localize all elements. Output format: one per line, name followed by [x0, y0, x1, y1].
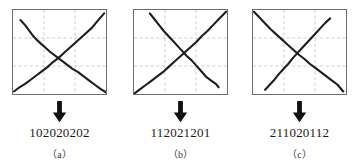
curve-ascending-a — [14, 13, 104, 91]
arrow-wrap-a — [0, 99, 119, 124]
figure-container: 102020202 （a） 112021201 （b） — [0, 0, 358, 167]
down-arrow-icon — [52, 101, 67, 123]
down-arrow-icon — [292, 101, 307, 123]
chart-plot-c — [253, 10, 346, 94]
sub-label-b: （b） — [121, 146, 240, 161]
arrow-wrap-c — [240, 99, 358, 124]
down-arrow-icon — [173, 101, 188, 123]
curve-descending-a — [20, 20, 106, 92]
code-label-a: 102020202 — [0, 125, 119, 141]
chart-plot-a — [13, 10, 106, 94]
chart-frame-a — [12, 9, 107, 95]
panel-group-a: 102020202 （a） — [0, 0, 119, 167]
code-label-b: 112021201 — [121, 125, 240, 141]
chart-plot-b — [134, 10, 227, 94]
panel-group-c: 211020112 （c） — [240, 0, 358, 167]
arrow-wrap-b — [121, 99, 240, 124]
sub-label-a: （a） — [0, 146, 119, 161]
curve-ascending-c — [265, 18, 330, 89]
panel-group-b: 112021201 （b） — [121, 0, 240, 167]
code-label-c: 211020112 — [240, 125, 358, 141]
curve-descending-b — [150, 13, 219, 87]
sub-label-c: （c） — [240, 146, 358, 161]
chart-frame-c — [252, 9, 347, 95]
chart-frame-b — [133, 9, 228, 95]
